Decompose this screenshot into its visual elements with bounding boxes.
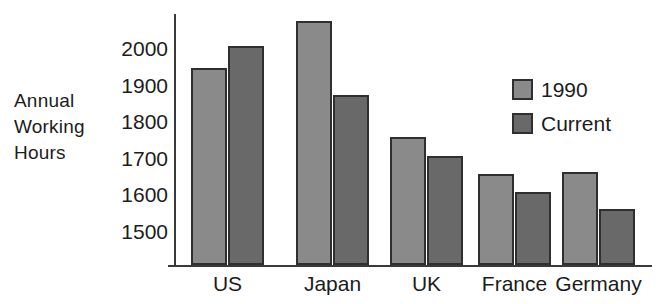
bar-france-1990	[478, 174, 514, 265]
x-axis-tick-label: UK	[412, 272, 441, 296]
legend-swatch-icon	[512, 79, 533, 100]
legend-item-1990: 1990	[512, 72, 611, 106]
y-axis-tick-label: 1600	[112, 184, 168, 205]
bar-japan-current	[333, 95, 369, 265]
legend-label: Current	[541, 113, 611, 134]
x-axis-line	[168, 265, 652, 267]
bar-uk-1990	[390, 137, 426, 265]
legend-item-current: Current	[512, 106, 611, 140]
bar-us-current	[228, 46, 264, 265]
bar-japan-1990	[296, 21, 332, 265]
x-axis-tick-label: US	[213, 272, 242, 296]
bar-france-current	[515, 192, 551, 265]
bar-us-1990	[191, 68, 227, 265]
x-axis-tick-label: Germany	[555, 272, 641, 296]
y-axis-tick-label: 1800	[112, 111, 168, 132]
legend: 1990Current	[512, 72, 611, 140]
y-axis-tick-label: 1900	[112, 74, 168, 95]
bar-uk-current	[427, 156, 463, 265]
y-axis-tick-labels: 150016001700180019002000	[108, 0, 168, 304]
bar-germany-1990	[562, 172, 598, 265]
bar-germany-current	[599, 209, 635, 265]
bar-chart: Annual Working Hours 1500160017001800190…	[0, 0, 659, 304]
y-axis-tick-label: 1700	[112, 147, 168, 168]
y-axis-tick-label: 2000	[112, 38, 168, 59]
y-axis-line	[174, 14, 176, 266]
x-axis-tick-label: France	[482, 272, 547, 296]
legend-label: 1990	[541, 79, 588, 100]
legend-swatch-icon	[512, 113, 533, 134]
y-axis-tick-label: 1500	[112, 220, 168, 241]
x-axis-tick-label: Japan	[304, 272, 361, 296]
